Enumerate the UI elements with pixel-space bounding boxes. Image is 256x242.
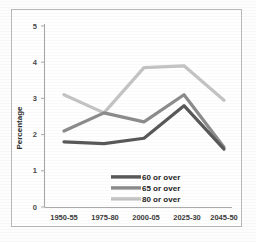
- x-tick-label-3: 2025-30: [173, 213, 201, 222]
- y-tick-label-2: 2: [33, 130, 37, 139]
- legend-swatch-80-or-over: [111, 197, 141, 200]
- series-line-60-or-over: [64, 106, 224, 149]
- chart-figure: 5 4 3 2 1 0 Percentage 1950-55 1975-80 2…: [0, 0, 256, 242]
- y-tick-label-5: 5: [33, 22, 37, 31]
- series-line-80-or-over: [64, 66, 224, 113]
- x-tick-label-2: 2000-05: [132, 213, 160, 222]
- x-tick-label-4: 2045-50: [210, 213, 238, 222]
- legend-swatch-65-or-over: [111, 186, 141, 189]
- legend-label-65-or-over: 65 or over: [142, 184, 180, 193]
- line-chart: 5 4 3 2 1 0 Percentage 1950-55 1975-80 2…: [0, 0, 256, 242]
- y-tick-label-4: 4: [33, 58, 38, 67]
- y-tick-label-3: 3: [33, 94, 37, 103]
- y-axis-title: Percentage: [15, 106, 24, 150]
- legend-label-60-or-over: 60 or over: [142, 173, 180, 182]
- y-tick-label-1: 1: [33, 166, 37, 175]
- x-tick-label-1: 1975-80: [91, 213, 119, 222]
- y-tick-label-0: 0: [33, 203, 37, 212]
- chart-legend: 60 or over 65 or over 80 or over: [111, 173, 180, 204]
- x-tick-label-0: 1950-55: [50, 213, 78, 222]
- legend-swatch-60-or-over: [111, 175, 141, 178]
- legend-label-80-or-over: 80 or over: [142, 195, 180, 204]
